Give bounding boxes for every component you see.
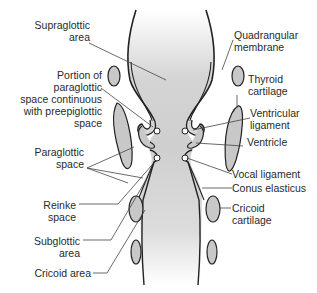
airway-lumen [128, 10, 214, 285]
label-ventricle: Ventricle [247, 136, 287, 148]
label-supraglottic-area: Supraglottic area [30, 19, 90, 43]
label-line: Ventricle [247, 136, 287, 148]
label-line: Conus elasticus [232, 182, 306, 194]
label-line: paraglottic [10, 81, 102, 93]
label-line: space [10, 117, 102, 129]
label-conus-elasticus: Conus elasticus [232, 182, 306, 194]
label-line: cartilage [232, 214, 272, 226]
label-line: space [22, 158, 84, 170]
label-line: Ventricular [250, 107, 300, 119]
right-cricoid-lower [207, 240, 217, 264]
label-line: space continuous [10, 93, 102, 105]
label-line: area [22, 247, 80, 259]
label-line: Subglottic [22, 235, 80, 247]
right-thyroid-cartilage [225, 106, 242, 171]
label-line: Vocal ligament [232, 168, 300, 180]
left-thyroid-cartilage [114, 103, 132, 169]
label-line: cartilage [248, 85, 288, 97]
label-line: Portion of [10, 69, 102, 81]
label-thyroid-cartilage: Thyroid cartilage [248, 73, 288, 97]
right-thyroid-upper-cartilage [232, 66, 244, 86]
label-line: Thyroid [248, 73, 288, 85]
label-line: area [30, 31, 90, 43]
label-ventricular-ligament: Ventricular ligament [250, 107, 300, 131]
label-cricoid-cartilage: Cricoid cartilage [232, 202, 272, 226]
label-line: Reinke [30, 199, 76, 211]
label-paraglottic-space: Paraglottic space [22, 146, 84, 170]
right-cricoid-cartilage [206, 196, 220, 222]
left-cricoid-lower [131, 240, 141, 264]
label-quadrangular-membrane: Quadrangular membrane [234, 29, 298, 53]
right-ventricular-ligament [182, 128, 188, 134]
left-cricoid-cartilage [129, 196, 143, 222]
label-vocal-ligament: Vocal ligament [232, 168, 300, 180]
label-line: with preepiglottic [10, 105, 102, 117]
left-ventricular-ligament [154, 128, 160, 134]
label-line: Cricoid [232, 202, 272, 214]
label-cricoid-area: Cricoid area [20, 267, 91, 279]
left-vocal-ligament [154, 155, 160, 161]
label-line: membrane [234, 41, 298, 53]
label-line: Supraglottic [30, 19, 90, 31]
label-portion-of-paraglottic-space: Portion of paraglottic space continuous … [10, 69, 102, 129]
label-line: ligament [250, 119, 300, 131]
label-reinke-space: Reinke space [30, 199, 76, 223]
label-line: Cricoid area [20, 267, 91, 279]
label-line: space [30, 211, 76, 223]
left-thyroid-upper-cartilage [108, 66, 120, 86]
larynx-diagram: Supraglottic area Portion of paraglottic… [0, 0, 317, 293]
label-line: Paraglottic [22, 146, 84, 158]
label-line: Quadrangular [234, 29, 298, 41]
label-subglottic-area: Subglottic area [22, 235, 80, 259]
